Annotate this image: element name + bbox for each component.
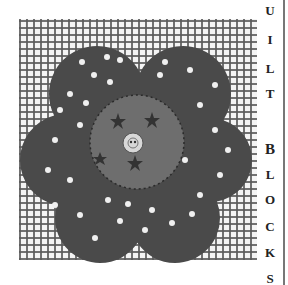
side-title-letter: L [258, 61, 282, 77]
side-title-letter: U [258, 3, 282, 19]
button-icon [123, 133, 143, 153]
side-title-letter: K [258, 245, 282, 261]
vertical-rule [283, 0, 285, 285]
side-title-letter: B [258, 141, 282, 158]
flower-applique [0, 0, 288, 285]
side-title-letter: L [258, 167, 282, 183]
side-title-letter: O [258, 192, 282, 208]
side-title: U I L T B L O C K S [258, 0, 282, 285]
side-title-letter: I [258, 32, 282, 48]
flower-center [90, 95, 184, 189]
side-title-letter: T [258, 86, 282, 102]
side-title-letter: C [258, 219, 282, 235]
side-title-letter: S [258, 271, 282, 285]
